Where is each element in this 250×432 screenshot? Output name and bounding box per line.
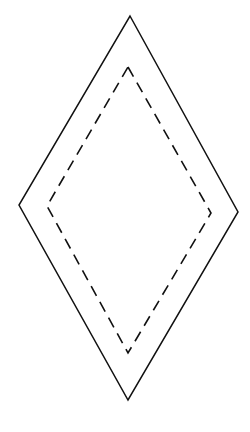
diamond-diagram (0, 0, 250, 432)
background (0, 0, 250, 432)
